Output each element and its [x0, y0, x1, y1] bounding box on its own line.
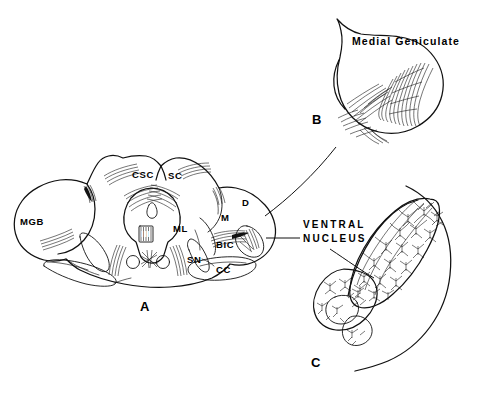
ventral-nucleus-line-2: NUCLEUS [303, 232, 367, 246]
panel-b-title: Medial Geniculate [352, 36, 460, 47]
label-bic: BIC [216, 240, 234, 250]
panel-b-drawing [265, 19, 443, 216]
label-sc: SC [168, 171, 182, 181]
label-csc: CSC [132, 170, 154, 180]
label-ml: ML [173, 224, 188, 234]
label-sn: SN [187, 255, 201, 265]
label-mgb: MGB [20, 217, 44, 227]
panel-letter-a: A [140, 300, 149, 313]
label-m: M [221, 213, 230, 223]
ventral-nucleus-line-1: VENTRAL [303, 218, 367, 232]
label-cc: CC [216, 265, 231, 275]
label-iii: III [141, 229, 151, 239]
ventral-nucleus-callout: VENTRAL NUCLEUS [303, 218, 367, 246]
panel-letter-c: C [311, 356, 320, 369]
leader-label-to-c [330, 249, 374, 278]
panel-c-drawing [266, 186, 451, 371]
panel-letter-b: B [312, 113, 321, 126]
leader-a-to-b [265, 147, 336, 216]
figure-root: MGB CSC SC III ML M D BIC SN CC A B C Me… [0, 0, 484, 395]
label-d: D [242, 198, 249, 208]
